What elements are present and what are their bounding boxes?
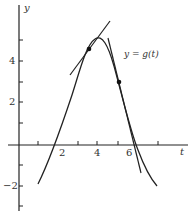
y-axis-label: y bbox=[24, 3, 30, 13]
t-tick-label-4: 4 bbox=[94, 148, 100, 158]
t-tick-label-2: 2 bbox=[59, 148, 65, 158]
y-tick-label-2: 2 bbox=[9, 97, 15, 107]
t-tick-label-6: 6 bbox=[126, 148, 132, 158]
y-tick-label-neg2: −2 bbox=[3, 181, 18, 191]
t-axis-label: t bbox=[180, 147, 184, 157]
graph bbox=[0, 0, 188, 213]
tangent-point-1 bbox=[87, 47, 92, 52]
y-tick-label-4: 4 bbox=[9, 56, 15, 66]
tangent-point-2 bbox=[117, 80, 122, 85]
curve-label: y = g(t) bbox=[124, 50, 159, 59]
